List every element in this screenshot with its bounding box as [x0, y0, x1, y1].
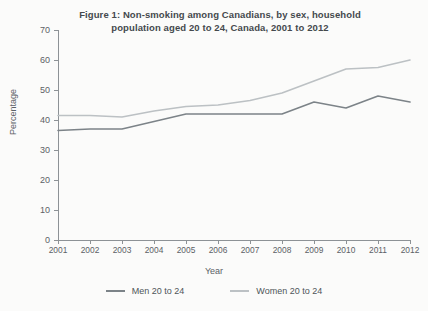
y-tick-label: 30	[40, 145, 50, 155]
legend-item-men: Men 20 to 24	[106, 286, 185, 296]
series-lines	[58, 30, 410, 241]
y-tick-label: 0	[45, 235, 50, 245]
plot-area: 010203040506070 200120022003200420052006…	[58, 30, 410, 240]
x-tick	[410, 240, 411, 244]
y-tick-label: 20	[40, 175, 50, 185]
x-tick-label: 2002	[81, 245, 100, 255]
chart-legend: Men 20 to 24 Women 20 to 24	[0, 286, 428, 296]
x-tick-label: 2003	[113, 245, 132, 255]
y-tick-label: 40	[40, 115, 50, 125]
y-tick-label: 60	[40, 55, 50, 65]
legend-swatch-women	[230, 290, 249, 292]
legend-label-women: Women 20 to 24	[256, 286, 322, 296]
x-tick-label: 2009	[305, 245, 324, 255]
y-tick-label: 10	[40, 205, 50, 215]
legend-label-men: Men 20 to 24	[132, 286, 185, 296]
y-axis-label: Percentage	[8, 89, 18, 135]
x-tick-label: 2006	[209, 245, 228, 255]
x-tick-label: 2011	[369, 245, 387, 255]
figure-container: Figure 1: Non-smoking among Canadians, b…	[0, 0, 428, 311]
legend-item-women: Women 20 to 24	[230, 286, 322, 296]
x-tick-label: 2008	[273, 245, 292, 255]
legend-swatch-men	[106, 290, 125, 292]
series-line-men	[58, 96, 410, 131]
x-axis-label: Year	[0, 266, 428, 276]
chart-title-line-1: Figure 1: Non-smoking among Canadians, b…	[79, 9, 361, 20]
x-tick-label: 2007	[241, 245, 260, 255]
x-tick-label: 2005	[177, 245, 196, 255]
y-tick-label: 50	[40, 85, 50, 95]
x-tick-label: 2001	[49, 245, 68, 255]
series-line-women	[58, 60, 410, 117]
x-tick-label: 2004	[145, 245, 164, 255]
x-tick-label: 2010	[337, 245, 356, 255]
x-tick-label: 2012	[401, 245, 420, 255]
y-tick-label: 70	[40, 25, 50, 35]
